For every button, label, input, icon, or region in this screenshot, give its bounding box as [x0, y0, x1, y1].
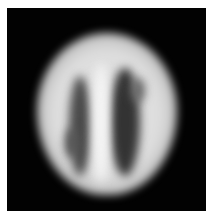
left-ventricle-shadow — [69, 76, 91, 176]
left-dark-spot — [65, 128, 79, 158]
right-dark-spot — [131, 78, 145, 102]
scan-frame — [7, 8, 206, 211]
midline-bright-region — [93, 63, 109, 183]
